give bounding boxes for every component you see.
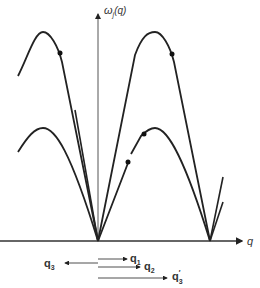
svg-text:q2: q2 xyxy=(144,260,155,274)
left-branch-line-1 xyxy=(75,110,98,241)
point-marker xyxy=(142,132,147,137)
svg-text:q3: q3 xyxy=(44,257,55,271)
x-axis-label: q xyxy=(247,235,254,247)
svg-text:q1: q1 xyxy=(130,252,141,266)
y-axis-label: ωj(q) xyxy=(104,4,126,19)
point-marker xyxy=(58,51,63,56)
svg-text:q3′: q3′ xyxy=(172,269,183,285)
point-marker xyxy=(170,52,175,57)
lower-branch-right xyxy=(98,128,210,241)
dispersion-diagram: ωj(q) q q1 q2 q3 q3′ xyxy=(0,0,260,288)
point-marker xyxy=(126,160,131,165)
upper-branch-right xyxy=(98,32,210,241)
